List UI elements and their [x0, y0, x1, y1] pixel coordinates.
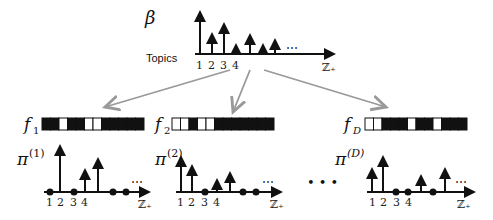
feature-cell	[85, 118, 94, 130]
f1-subscript: 1	[33, 125, 39, 136]
tick-2: 2	[208, 59, 215, 72]
axis-end-label: ℤ₊	[322, 61, 336, 74]
feature-cell	[266, 118, 275, 130]
feature-cell	[189, 118, 198, 130]
pi2-tick-3: 3	[201, 196, 208, 209]
feature-fD: f D	[342, 114, 467, 136]
feature-cell	[459, 118, 468, 130]
feature-cell	[198, 118, 207, 130]
feature-cell	[119, 118, 128, 130]
f1-binary-bar	[42, 118, 144, 130]
tick-1: 1	[196, 59, 203, 72]
feature-cell	[442, 118, 451, 130]
feature-cell	[365, 118, 374, 130]
piD-ellipsis: ⋯	[455, 175, 467, 189]
feature-cell	[68, 118, 77, 130]
feature-cell	[416, 118, 425, 130]
feature-cell	[391, 118, 400, 130]
arrow-to-fD	[264, 70, 386, 107]
f2-subscript: 2	[164, 125, 170, 136]
pi2-symbol: π	[154, 149, 167, 169]
pi2-tick-4: 4	[213, 196, 220, 209]
piD-axis-end: ℤ₊	[457, 198, 471, 211]
feature-cell	[76, 118, 85, 130]
feature-cell	[232, 118, 241, 130]
pi2-tick-1: 1	[177, 196, 184, 209]
piD-tick-1: 1	[369, 196, 376, 209]
pi2-tick-2: 2	[188, 196, 195, 209]
feature-cell	[206, 118, 215, 130]
feature-cell	[450, 118, 459, 130]
fD-label: f	[342, 114, 353, 134]
feature-cell	[215, 118, 224, 130]
feature-cell	[93, 118, 102, 130]
feature-cell	[136, 118, 145, 130]
feature-cell	[181, 118, 190, 130]
beta-stems	[200, 16, 275, 54]
pi2-superscript: (2)	[167, 147, 183, 160]
feature-cell	[42, 118, 51, 130]
piD-tick-4: 4	[405, 196, 412, 209]
piD-tick-3: 3	[393, 196, 400, 209]
feature-f2: f 2	[153, 114, 274, 136]
pi1-ellipsis: ⋯	[131, 175, 143, 189]
pi-D-stem-plot: π (D) ⋯ 1 2 3 4 ℤ₊	[334, 147, 471, 211]
feature-cell	[59, 118, 68, 130]
pi1-symbol: π	[16, 149, 29, 169]
fD-subscript: D	[352, 125, 361, 136]
topics-label: Topics	[146, 52, 178, 64]
pi2-ellipsis: ⋯	[262, 175, 274, 189]
feature-cell	[249, 118, 258, 130]
pi1-axis-end: ℤ₊	[138, 198, 152, 211]
feature-cell	[408, 118, 417, 130]
piD-symbol: π	[334, 149, 347, 169]
piD-superscript: (D)	[347, 147, 364, 160]
feature-cell	[127, 118, 136, 130]
tick-4: 4	[232, 59, 239, 72]
feature-cell	[433, 118, 442, 130]
beta-ellipsis: ⋯	[286, 41, 298, 55]
fD-binary-bar	[365, 118, 467, 130]
f2-label: f	[153, 114, 164, 134]
feature-cell	[102, 118, 111, 130]
pi1-tick-1: 1	[46, 196, 53, 209]
arrow-to-f1	[105, 70, 230, 107]
feature-f1: f 1	[22, 114, 144, 136]
pi1-tick-4: 4	[81, 196, 88, 209]
arrow-to-f2	[233, 70, 250, 112]
feature-cell	[223, 118, 232, 130]
piD-tick-2: 2	[380, 196, 387, 209]
feature-cell	[51, 118, 60, 130]
pi1-superscript: (1)	[29, 147, 45, 160]
beta-label: β	[144, 7, 155, 28]
pi-1-stem-plot: π (1) ⋯ 1 2 3 4 ℤ₊	[16, 147, 152, 211]
topic-model-diagram: β ⋯ Topics 1 2 3 4 ℤ₊ f 1 f 2 f D π (1)	[0, 0, 493, 220]
f1-label: f	[22, 114, 33, 134]
feature-cell	[382, 118, 391, 130]
feature-cell	[257, 118, 266, 130]
pi2-axis-end: ℤ₊	[270, 198, 284, 211]
documents-ellipsis: • • •	[307, 175, 338, 190]
pi1-tick-3: 3	[70, 196, 77, 209]
feature-cell	[110, 118, 119, 130]
f2-binary-bar	[172, 118, 274, 130]
assignment-arrows	[105, 70, 386, 112]
feature-cell	[172, 118, 181, 130]
feature-cell	[425, 118, 434, 130]
pi1-tick-2: 2	[57, 196, 64, 209]
tick-3: 3	[220, 59, 227, 72]
beta-stem-plot: β ⋯ Topics 1 2 3 4 ℤ₊	[144, 7, 336, 74]
feature-cell	[399, 118, 408, 130]
feature-cell	[240, 118, 249, 130]
feature-cell	[374, 118, 383, 130]
pi-2-stem-plot: π (2) ⋯ 1 2 3 4 ℤ₊	[154, 147, 284, 211]
